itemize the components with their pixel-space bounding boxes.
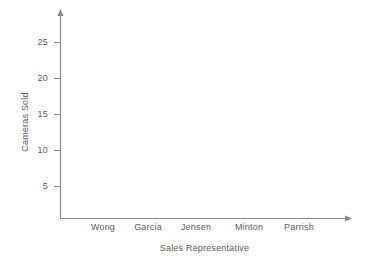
x-tick-label-wong: Wong xyxy=(91,222,115,233)
x-tick-label-minton: Minton xyxy=(235,222,263,233)
x-tick-label-garcia: Garcia xyxy=(134,222,162,233)
x-tick-label-parrish: Parrish xyxy=(284,222,314,233)
y-tick-label-20: 20 xyxy=(2,74,48,83)
chart-container: 25 20 15 10 5 Cameras Sold Wong Garcia J… xyxy=(0,0,367,266)
y-axis-title: Cameras Sold xyxy=(21,92,30,151)
plot-area xyxy=(61,12,351,218)
x-tick-label-jensen: Jensen xyxy=(181,222,211,233)
x-axis-title-wrap: Sales Representative xyxy=(0,243,367,254)
x-axis-title: Sales Representative xyxy=(160,243,250,254)
y-tick-label-5: 5 xyxy=(2,182,48,191)
y-tick-label-25: 25 xyxy=(2,38,48,47)
